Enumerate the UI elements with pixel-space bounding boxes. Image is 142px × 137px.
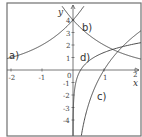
x-tick-label: 1 — [103, 74, 107, 82]
y-axis-label: y — [57, 7, 64, 17]
x-tick-label: -1 — [39, 74, 46, 82]
curve-d-label: d) — [80, 52, 90, 63]
curve-c-label: c) — [97, 91, 106, 102]
y-tick-label: -2 — [63, 92, 70, 100]
y-tick-label: 1 — [66, 55, 70, 63]
y-tick-label: 3 — [66, 30, 70, 38]
function-graph: -2 -1 0 1 2 4 3 2 1 -1 -2 -3 -4 y x a) b… — [0, 0, 142, 137]
y-tick-label: 2 — [66, 42, 70, 50]
y-tick-label: -4 — [63, 117, 70, 125]
y-tick-label: -3 — [63, 105, 70, 113]
curve-a-label: a) — [9, 50, 19, 61]
curve-b-label: b) — [82, 22, 92, 33]
x-tick-label: -2 — [9, 74, 16, 82]
plot-frame — [7, 3, 141, 136]
y-tick-label: -1 — [63, 80, 70, 88]
x-axis-label: x — [133, 78, 138, 88]
y-tick-label: 4 — [66, 17, 71, 25]
